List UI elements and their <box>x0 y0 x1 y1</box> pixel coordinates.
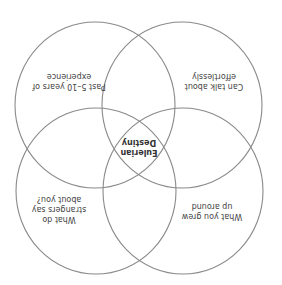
label-bottom-right-line-2: up around <box>192 202 233 211</box>
label-top-right-line-1: Can talk about <box>185 82 244 91</box>
circle-bottom-left <box>16 108 176 274</box>
circle-bottom-right <box>103 108 263 274</box>
label-bottom-left-line-2: strangers say <box>32 205 87 214</box>
label-center: Eulerian Destiny <box>120 138 157 157</box>
label-top-right-line-2: effortlessly <box>192 72 236 81</box>
label-center-line-1: Eulerian <box>120 148 157 157</box>
label-top-left: Past 5–10 years of experience <box>32 72 105 91</box>
label-bottom-left: What do strangers say about you? <box>32 195 87 224</box>
label-center-line-2: Destiny <box>121 138 156 147</box>
circle-top-left <box>15 22 175 188</box>
label-top-left-line-2: experience <box>47 72 91 81</box>
label-bottom-left-line-3: about you? <box>37 195 82 204</box>
venn-diagram: Past 5–10 years of experience Can talk a… <box>0 0 282 285</box>
label-bottom-right-line-1: What you grew <box>181 212 242 221</box>
label-bottom-right: What you grew up around <box>181 202 242 221</box>
label-top-left-line-1: Past 5–10 years of <box>32 82 105 91</box>
label-bottom-left-line-1: What do <box>42 215 76 224</box>
circle-top-right <box>102 22 262 188</box>
label-top-right: Can talk about effortlessly <box>185 72 244 91</box>
